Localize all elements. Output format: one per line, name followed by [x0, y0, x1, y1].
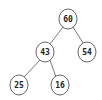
tree-node-25: 25: [10, 75, 28, 95]
tree-node-60: 60: [59, 9, 77, 29]
node-label: 25: [14, 81, 24, 90]
node-label: 60: [63, 15, 73, 24]
edge-43-16: [50, 60, 56, 77]
tree-node-54: 54: [78, 42, 96, 62]
tree-node-43: 43: [36, 42, 54, 62]
edge-43-25: [24, 60, 40, 77]
edge-60-43: [50, 27, 63, 44]
edge-60-54: [73, 27, 83, 43]
node-label: 43: [40, 48, 50, 57]
node-label: 16: [55, 81, 65, 90]
binary-tree-diagram: 60 43 54 25 16: [0, 0, 102, 100]
node-label: 54: [82, 48, 92, 57]
tree-node-16: 16: [51, 75, 69, 95]
